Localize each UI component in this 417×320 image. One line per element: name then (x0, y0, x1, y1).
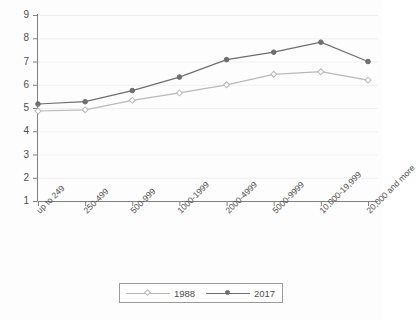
data-point-2017 (366, 59, 371, 64)
y-tick-label: 1 (13, 196, 29, 206)
data-point-1988 (224, 82, 230, 88)
data-point-2017 (177, 75, 182, 80)
data-point-1988 (82, 107, 88, 113)
legend-key-2017-icon (206, 288, 250, 298)
y-tick-label: 6 (13, 80, 29, 90)
y-tick-label: 2 (13, 173, 29, 183)
y-tick-label: 4 (13, 126, 29, 136)
legend-entry-2017: 2017 (206, 284, 275, 302)
data-point-1988 (365, 77, 371, 83)
legend-key-1988-icon (126, 288, 170, 298)
series-line-1988 (38, 72, 368, 111)
data-point-2017 (83, 99, 88, 104)
y-axis-ticks (33, 16, 38, 202)
data-point-2017 (36, 102, 41, 107)
y-tick-label: 9 (13, 10, 29, 20)
data-point-1988 (318, 69, 324, 75)
y-tick-label: 8 (13, 33, 29, 43)
y-tick-label: 5 (13, 103, 29, 113)
data-point-2017 (224, 57, 229, 62)
data-point-2017 (130, 88, 135, 93)
y-tick-label: 3 (13, 150, 29, 160)
data-point-2017 (319, 40, 324, 45)
data-series-layer (35, 40, 371, 114)
data-point-2017 (271, 50, 276, 55)
data-point-1988 (129, 97, 135, 103)
legend-entry-1988: 1988 (126, 284, 195, 302)
series-line-2017 (38, 42, 368, 104)
data-point-1988 (176, 90, 182, 96)
legend-label-2017: 2017 (254, 288, 275, 299)
y-tick-label: 7 (13, 57, 29, 67)
data-point-1988 (271, 71, 277, 77)
chart-legend: 1988 2017 (119, 283, 283, 303)
legend-label-1988: 1988 (174, 288, 195, 299)
